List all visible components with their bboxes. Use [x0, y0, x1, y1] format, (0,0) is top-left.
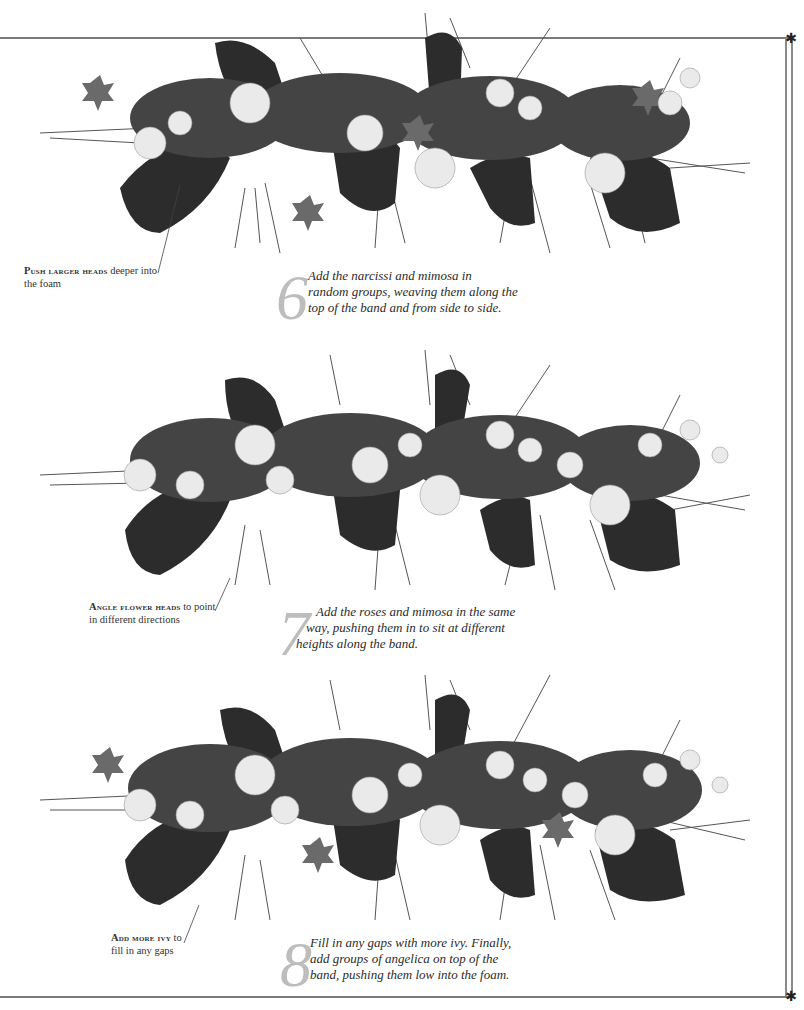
- callout-push-larger-heads: Push larger heads deeper into the foam: [24, 264, 157, 290]
- step-number: 8: [280, 935, 312, 995]
- step-number: 6: [276, 268, 308, 328]
- step-text-line: Fill in any gaps with more ivy. Finally,: [310, 935, 511, 951]
- arrangement-photo-step-7: [30, 345, 760, 595]
- floral-band-illustration: [30, 8, 760, 253]
- arrangement-photo-step-8: [30, 670, 760, 930]
- step-text: Fill in any gaps with more ivy. Finally,…: [310, 935, 511, 983]
- callout-text: deeper into: [108, 265, 158, 276]
- step-text-line: top of the band and from side to side.: [308, 300, 518, 316]
- step-text: Add the narcissi and mimosa in random gr…: [308, 268, 518, 316]
- step-text: Add the roses and mimosa in the same way…: [296, 604, 515, 652]
- callout-lead: Add more ivy: [111, 932, 171, 943]
- callout-angle-flower-heads: Angle flower heads to point in different…: [89, 600, 216, 626]
- leader-line: [182, 905, 202, 945]
- bottom-border-rule: [0, 996, 791, 998]
- step-text-line: Add the narcissi and mimosa in: [308, 268, 518, 284]
- step-text-line: random groups, weaving them along the: [308, 284, 518, 300]
- step-6: 6 Add the narcissi and mimosa in random …: [276, 268, 576, 328]
- callout-text: to point: [181, 601, 216, 612]
- callout-add-more-ivy: Add more ivy to fill in any gaps: [111, 931, 182, 957]
- callout-text-line2: the foam: [24, 277, 157, 290]
- step-7: 7 Add the roses and mimosa in the same w…: [278, 604, 578, 664]
- floral-band-illustration: [30, 345, 760, 595]
- step-text-line: Add the roses and mimosa in the same: [296, 604, 515, 620]
- arrangement-photo-step-6: [30, 8, 760, 253]
- step-text-line: heights along the band.: [296, 636, 515, 652]
- callout-lead: Angle flower heads: [89, 601, 181, 612]
- floral-band-illustration: [30, 670, 760, 930]
- callout-text-line2: in different directions: [89, 613, 216, 626]
- right-border-rule-outer: [791, 38, 793, 996]
- step-text-line: add groups of angelica on top of the: [310, 951, 511, 967]
- callout-text: to: [171, 932, 182, 943]
- callout-text-line2: fill in any gaps: [111, 944, 182, 957]
- corner-ornament-icon: ✱: [784, 989, 798, 1003]
- right-border-rule-inner: [785, 38, 787, 996]
- leader-line: [213, 578, 233, 613]
- leader-line: [155, 185, 185, 275]
- step-text-line: band, pushing them low into the foam.: [310, 967, 511, 983]
- step-text-line: way, pushing them in to sit at different: [296, 620, 515, 636]
- corner-ornament-icon: ✱: [784, 31, 798, 45]
- step-8: 8 Fill in any gaps with more ivy. Finall…: [280, 935, 580, 995]
- callout-lead: Push larger heads: [24, 265, 108, 276]
